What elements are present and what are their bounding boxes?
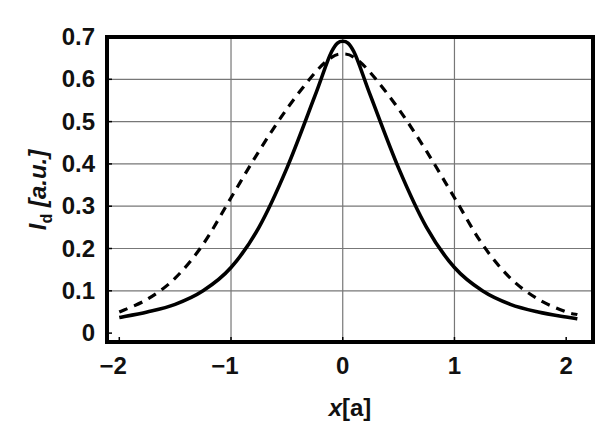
y-tick-label: 0.6 [62, 65, 95, 92]
x-axis-label-unit: [a] [342, 394, 371, 421]
x-tick-label: 2 [560, 352, 573, 379]
y-tick-label: 0.7 [62, 23, 95, 50]
data-series [119, 41, 577, 319]
dashed-curve [119, 54, 577, 315]
y-axis-label-subscript: d [38, 214, 55, 224]
y-tick-label: 0.1 [62, 277, 95, 304]
plot-frame [107, 37, 593, 342]
grid-lines [107, 37, 593, 342]
line-chart: 00.10.20.30.40.50.60.7 −2−1012 x[a] Id [… [0, 0, 612, 432]
y-axis-label: Id [a.u.] [24, 149, 55, 230]
y-tick-label: 0.3 [62, 192, 95, 219]
y-tick-label: 0 [82, 319, 95, 346]
y-axis-label-unit: [a.u.] [24, 149, 51, 214]
y-tick-label: 0.5 [62, 108, 95, 135]
x-tick-label: 1 [448, 352, 461, 379]
x-tick-label: −1 [211, 352, 238, 379]
y-tick-label: 0.4 [62, 150, 96, 177]
y-tick-label: 0.2 [62, 235, 95, 262]
x-tick-label: −2 [100, 352, 127, 379]
x-axis-label: x[a] [327, 394, 372, 421]
y-axis-ticks: 00.10.20.30.40.50.60.7 [62, 23, 112, 346]
x-tick-label: 0 [336, 352, 349, 379]
